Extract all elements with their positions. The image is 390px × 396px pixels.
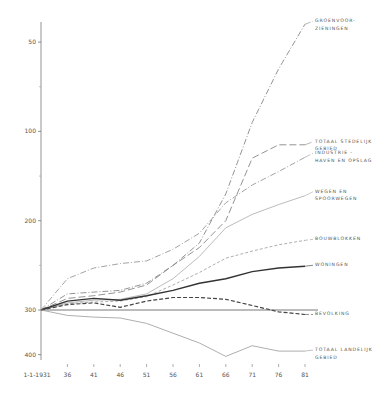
series-label-wegen-en-spoorwegen: SPOORWEGEN [315,196,357,201]
series-label-totaal-landelijk-gebied: GEBIED [315,355,338,360]
series-label-totaal-stedelijk-gebied: TOTAAL STEDELIJK [314,139,372,144]
series-line-woningen [41,266,305,310]
series-label-groenvoorzieningen: GROENVOOR- [315,18,356,23]
x-tick-label: 1-1-1931 [23,371,50,378]
series-line-groenvoorzieningen [41,24,305,310]
x-tick-label: 56 [169,371,177,378]
x-tick-label: 36 [64,371,72,378]
x-tick-label: 51 [143,371,151,378]
y-tick-label: 300 [25,306,37,313]
series-lines [41,24,318,356]
label-connector [305,153,313,157]
y-tick-label: 50 [28,38,36,45]
y-tick-label: 400 [25,351,37,358]
x-tick-label: 61 [196,371,204,378]
label-connector [305,239,313,240]
y-tick-label: 200 [25,217,37,224]
series-label-bevolking: BEVOLKING [315,311,350,316]
series-label-industrie-haven-en-opslag: INDUSTRIE - [315,150,353,155]
x-tick-label: 46 [116,371,124,378]
label-connector [305,350,313,351]
series-line-industrie-haven-en-opslag [41,157,305,310]
series-label-groenvoorzieningen: ZIENINGEN [315,26,349,31]
x-tick-label: 81 [301,371,309,378]
series-label-wegen-en-spoorwegen: WEGEN EN [315,189,347,194]
axes: 400300200100501-1-1931364146515661667176… [23,22,309,378]
line-chart: 400300200100501-1-1931364146515661667176… [0,0,390,396]
x-tick-label: 76 [275,371,283,378]
x-tick-label: 71 [248,371,256,378]
label-connector [305,265,313,266]
y-tick-label: 100 [25,127,37,134]
series-label-woningen: WONINGEN [315,262,348,267]
series-line-totaal-landelijk-gebied [41,310,305,356]
series-label-industrie-haven-en-opslag: HAVEN EN OPSLAG [315,158,372,163]
x-tick-label: 66 [222,371,230,378]
label-connector [305,142,313,145]
label-connector [305,192,313,196]
x-tick-label: 41 [90,371,98,378]
series-label-bouwblokken: BOUWBLOKKEN [315,236,361,241]
series-labels: GROENVOOR-ZIENINGENTOTAAL STEDELIJKGEBIE… [305,18,373,359]
series-label-totaal-landelijk-gebied: TOTAAL LANDELIJK [314,347,373,352]
label-connector [305,21,313,24]
